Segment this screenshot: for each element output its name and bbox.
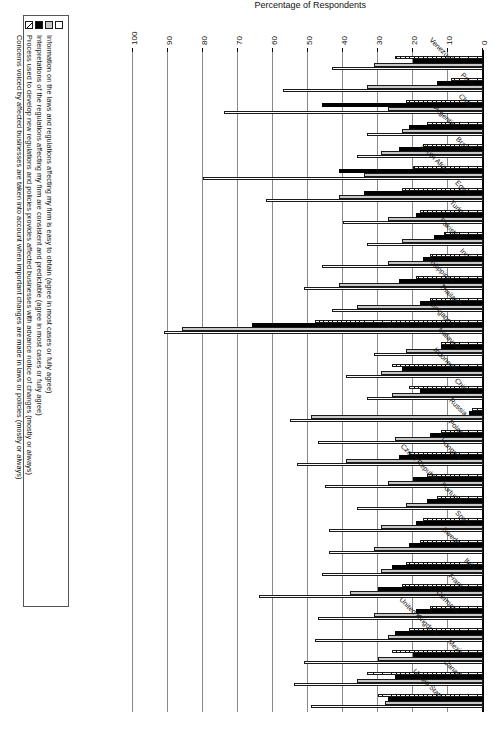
legend-swatch-0 (55, 21, 63, 29)
bar-interpretations (375, 613, 484, 616)
bar-concerns_voiced (473, 408, 484, 411)
bar-information (203, 177, 483, 180)
bar-row (134, 360, 483, 382)
bar-row (134, 206, 483, 228)
bar-information (284, 89, 484, 92)
bar-interpretations (389, 217, 484, 220)
bar-advance_notice (410, 125, 484, 128)
bar-interpretations (364, 173, 483, 176)
bar-information (305, 287, 484, 290)
axis-tick-label: 40 (340, 36, 349, 45)
bar-row (134, 580, 483, 602)
axis-tick (132, 48, 133, 52)
bar-row (134, 96, 483, 118)
bar-advance_notice (413, 653, 483, 656)
bar-concerns_voiced (410, 452, 484, 455)
bar-information (368, 133, 484, 136)
bar-interpretations (368, 85, 484, 88)
bar-interpretations (340, 195, 484, 198)
bar-row (134, 492, 483, 514)
bar-information (333, 309, 484, 312)
bar-information (329, 529, 483, 532)
bar-interpretations (312, 415, 484, 418)
bar-concerns_voiced (420, 210, 483, 213)
bar-concerns_voiced (392, 650, 483, 653)
chart-legend: Information on the laws and regulations … (13, 7, 69, 607)
bar-interpretations (357, 305, 483, 308)
bar-information (305, 661, 484, 664)
bar-row (134, 162, 483, 184)
bar-information (347, 375, 484, 378)
bar-row (134, 228, 483, 250)
bar-concerns_voiced (392, 364, 483, 367)
bar-row (134, 646, 483, 668)
bar-row (134, 382, 483, 404)
legend-label-0: Information on the laws and regulations … (45, 35, 54, 394)
bar-information (357, 155, 483, 158)
bar-interpretations (382, 371, 484, 374)
legend-swatch-2 (35, 21, 43, 29)
axis-tick-label: 20 (410, 36, 419, 45)
bar-information (333, 67, 484, 70)
bar-information (165, 331, 484, 334)
legend-label-1: Interpretations of the regulations affec… (35, 35, 44, 416)
bar-information (326, 485, 484, 488)
gridline (132, 52, 133, 712)
bar-information (368, 243, 484, 246)
bar-interpretations (403, 129, 484, 132)
bar-row (134, 184, 483, 206)
legend-swatch-3 (25, 21, 33, 29)
bar-information (319, 617, 484, 620)
bar-row (134, 602, 483, 624)
bar-row (134, 316, 483, 338)
bar-interpretations (378, 657, 483, 660)
bar-concerns_voiced (410, 628, 484, 631)
bar-advance_notice (396, 675, 484, 678)
bar-row (134, 272, 483, 294)
bar-advance_notice (469, 411, 483, 414)
bar-interpretations (392, 393, 483, 396)
axis-tick-label: 90 (165, 36, 174, 45)
bar-advance_notice (322, 103, 483, 106)
bar-advance_notice (403, 367, 484, 370)
legend-swatch-1 (45, 21, 53, 29)
bar-advance_notice (417, 521, 484, 524)
axis-tick-label: 60 (270, 36, 279, 45)
bar-information (319, 441, 484, 444)
axis-tick-label: 80 (200, 36, 209, 45)
axis-tick-label: 50 (305, 36, 314, 45)
axis-tick-label: 70 (235, 36, 244, 45)
legend-label-3: Concerns voiced by affected businesses a… (15, 35, 24, 479)
bar-row (134, 558, 483, 580)
bar-information (298, 463, 484, 466)
bar-information (357, 507, 483, 510)
legend-label-2: Process used to develop new regulations … (25, 35, 34, 475)
rotated-figure: 0102030405060708090100 United StatesCana… (0, 0, 493, 730)
bar-information (375, 353, 484, 356)
bar-advance_notice (399, 279, 483, 282)
bar-interpretations (389, 635, 484, 638)
bar-advance_notice (340, 169, 484, 172)
bar-row (134, 118, 483, 140)
bar-advance_notice (413, 477, 483, 480)
bar-interpretations (382, 569, 484, 572)
bar-advance_notice (420, 389, 483, 392)
bar-row (134, 52, 483, 74)
bar-information (322, 573, 483, 576)
bar-interpretations (385, 701, 483, 704)
bar-information (294, 683, 483, 686)
bar-concerns_voiced (424, 518, 484, 521)
axis-tick-label: 30 (375, 36, 384, 45)
axis-tick-label: 100 (130, 32, 139, 45)
bar-row (134, 404, 483, 426)
axis-tick-label: 0 (480, 41, 489, 45)
bar-information (368, 397, 484, 400)
bar-interpretations (375, 547, 484, 550)
bar-row (134, 338, 483, 360)
bar-concerns_voiced (396, 56, 484, 59)
bar-interpretations (340, 283, 484, 286)
bar-advance_notice (438, 81, 484, 84)
axis-tick-label: 10 (445, 36, 454, 45)
bar-information (312, 705, 484, 708)
bar-row (134, 536, 483, 558)
